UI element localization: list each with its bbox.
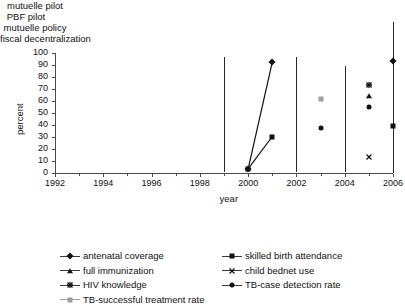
x-axis-title: year <box>199 193 259 204</box>
legend-item-label: HIV knowledge <box>83 280 147 290</box>
data-point-marker <box>270 134 275 139</box>
data-point-marker <box>318 97 323 102</box>
legend-item: TB-successful treatment rate <box>60 295 204 305</box>
data-point-marker <box>365 153 372 160</box>
legend-marker-gray-square-icon <box>60 295 80 304</box>
legend-item-label: TB-successful treatment rate <box>83 295 204 305</box>
legend-item-label: TB-case detection rate <box>245 280 341 290</box>
legend-item: skilled birth attendance <box>222 251 342 261</box>
legend-marker-circle-icon <box>222 281 242 290</box>
legend-item: child bednet use <box>222 266 314 276</box>
legend-item: antenatal coverage <box>60 251 164 261</box>
data-point-marker <box>246 166 251 171</box>
legend-marker-x-icon <box>222 266 242 275</box>
data-point-marker <box>318 126 323 131</box>
legend-marker-square-icon <box>222 252 242 261</box>
legend-item-label: skilled birth attendance <box>245 251 342 261</box>
legend-item: TB-case detection rate <box>222 280 341 290</box>
legend-marker-star-icon <box>60 281 80 290</box>
data-point-marker <box>366 93 372 98</box>
legend-marker-diamond-icon <box>60 252 80 261</box>
data-point-marker <box>365 81 372 88</box>
legend-marker-triangle-icon <box>60 266 80 275</box>
legend-item-label: full immunization <box>83 266 154 276</box>
legend-item-label: child bednet use <box>245 266 314 276</box>
legend-item-label: antenatal coverage <box>83 251 164 261</box>
data-point-marker <box>391 123 396 128</box>
legend-item: full immunization <box>60 266 154 276</box>
data-point-marker <box>366 104 371 109</box>
legend-item: HIV knowledge <box>60 280 147 290</box>
